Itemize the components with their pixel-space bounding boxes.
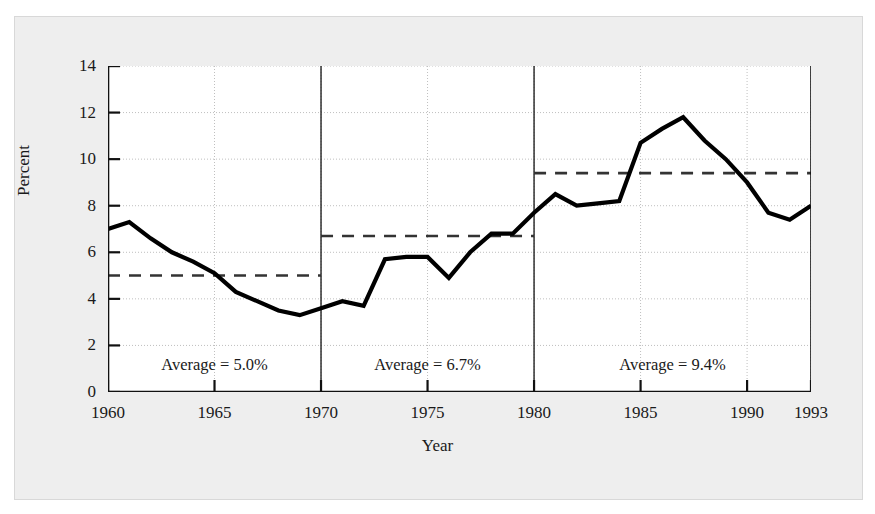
x-axis-label: Year [0,436,875,456]
y-tick-label: 8 [56,197,96,214]
data-line [108,117,811,315]
average-annotation: Average = 5.0% [105,355,325,375]
y-axis-label: Percent [14,145,34,196]
y-tick-label: 0 [56,383,96,400]
x-tick-label: 1975 [398,404,458,421]
figure-container: Percent Year 02468101214 196019651970197… [0,0,875,514]
average-annotation: Average = 6.7% [318,355,538,375]
y-tick-label: 10 [56,150,96,167]
x-tick-label: 1970 [291,404,351,421]
average-annotation: Average = 9.4% [563,355,783,375]
chart-svg [108,66,811,392]
x-tick-label: 1960 [78,404,138,421]
y-tick-label: 14 [56,57,96,74]
x-tick-label: 1965 [185,404,245,421]
x-tick-label: 1980 [504,404,564,421]
plot-area [108,66,811,392]
y-tick-label: 4 [56,290,96,307]
x-tick-label: 1990 [717,404,777,421]
y-tick-label: 2 [56,336,96,353]
x-tick-label: 1993 [781,404,841,421]
x-tick-label: 1985 [611,404,671,421]
y-tick-label: 12 [56,104,96,121]
y-tick-label: 6 [56,243,96,260]
